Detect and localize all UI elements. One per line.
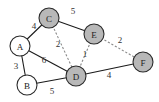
node-label: F (140, 58, 145, 68)
node-label: E (91, 30, 97, 40)
node-label: A (17, 42, 24, 52)
node-c: C (39, 8, 59, 28)
node-e: E (84, 24, 104, 44)
edge-weight-b-d: 5 (50, 86, 55, 96)
node-label: C (46, 14, 52, 24)
edge-weight-c-e: 5 (71, 6, 76, 16)
edge-weight-e-f: 2 (118, 35, 123, 45)
node-label: D (73, 72, 80, 82)
node-label: B (24, 81, 30, 91)
node-d: D (66, 66, 86, 86)
weighted-graph-diagram: 452126354 ABCDEF (0, 0, 159, 102)
edge-weight-c-d: 2 (56, 39, 61, 49)
edge-weight-a-c: 4 (32, 21, 37, 31)
edge-weight-a-d: 6 (42, 55, 47, 65)
node-f: F (133, 52, 153, 72)
node-b: B (17, 75, 37, 95)
edge-weight-e-d: 1 (83, 49, 88, 59)
edge-weight-d-f: 4 (107, 70, 112, 80)
node-a: A (10, 36, 30, 56)
edge-weight-a-b: 3 (14, 61, 19, 71)
